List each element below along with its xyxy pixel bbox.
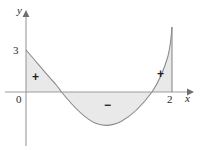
region-sign-middle: − bbox=[104, 99, 111, 111]
x-tick-label-2: 2 bbox=[167, 94, 173, 105]
y-tick-label-3: 3 bbox=[13, 45, 19, 56]
region-sign-left: + bbox=[32, 71, 39, 83]
plot-svg bbox=[0, 0, 203, 150]
y-axis-label: y bbox=[17, 5, 22, 16]
shaded-region-right-positive bbox=[152, 27, 172, 92]
region-sign-right: + bbox=[157, 68, 164, 80]
origin-tick-label: 0 bbox=[16, 94, 22, 105]
figure-canvas: y x 3 0 2 + − + bbox=[0, 0, 203, 150]
y-axis-arrow-icon bbox=[23, 10, 30, 17]
x-axis-label: x bbox=[185, 93, 190, 104]
